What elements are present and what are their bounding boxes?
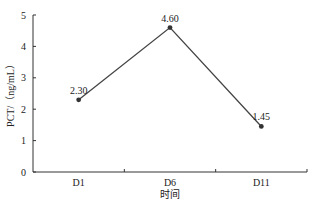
data-label: 4.60 — [161, 13, 179, 24]
x-category-label: D6 — [164, 177, 176, 188]
y-tick-label: 0 — [21, 167, 26, 178]
y-tick-label: 2 — [21, 104, 26, 115]
y-axis-title: PCT/（ng/mL） — [5, 59, 16, 127]
y-axis: 012345 — [21, 10, 36, 178]
data-point — [76, 97, 81, 102]
y-tick-label: 1 — [21, 135, 26, 146]
x-category-label: D11 — [253, 177, 270, 188]
y-tick-label: 3 — [21, 72, 26, 83]
data-point — [168, 25, 173, 30]
x-category-label: D1 — [73, 177, 85, 188]
x-axis-title: 时间 — [160, 188, 180, 200]
data-series: 2.304.601.45 — [70, 13, 270, 129]
line-chart: 012345 D1D6D11 2.304.601.45 PCT/（ng/mL） … — [0, 0, 315, 207]
data-label: 2.30 — [70, 85, 88, 96]
y-tick-label: 5 — [21, 10, 26, 21]
y-tick-label: 4 — [21, 41, 26, 52]
data-point — [259, 124, 264, 129]
data-label: 1.45 — [253, 111, 271, 122]
x-axis: D1D6D11 — [33, 169, 307, 188]
series-line — [79, 28, 262, 127]
